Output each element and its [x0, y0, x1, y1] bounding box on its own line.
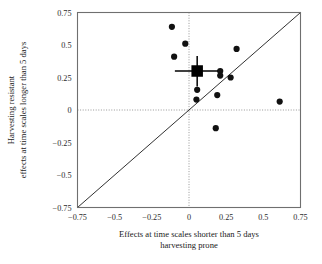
data-point: [182, 41, 188, 47]
data-point: [213, 125, 219, 131]
x-tick-label: −0.25: [142, 213, 161, 222]
x-tick-label: 0.5: [258, 213, 268, 222]
y-tick-label: 0.75: [57, 9, 71, 18]
y-axis-title-line: effects at time scales longer than 5 day…: [18, 41, 28, 178]
x-axis-title-line: Effects at time scales shorter than 5 da…: [119, 229, 260, 239]
x-tick-label: −0.75: [68, 213, 87, 222]
plot-canvas: −0.75−0.5−0.2500.250.50.75−0.75−0.5−0.25…: [0, 0, 322, 264]
data-point: [193, 97, 199, 103]
data-point: [171, 54, 177, 60]
y-tick-label: −0.5: [57, 171, 72, 180]
y-tick-label: 0.5: [61, 41, 71, 50]
mean-square-marker: [191, 65, 203, 77]
x-tick-label: 0.25: [219, 213, 233, 222]
data-point: [217, 72, 223, 78]
y-tick-label: −0.75: [53, 204, 72, 213]
data-point: [214, 92, 220, 98]
data-point: [194, 87, 200, 93]
data-point: [169, 24, 175, 30]
y-tick-label: −0.25: [53, 139, 72, 148]
x-tick-label: 0.75: [293, 213, 307, 222]
x-tick-label: 0: [187, 213, 191, 222]
y-axis-title-line: Harvesting resistant: [6, 75, 16, 144]
y-tick-label: 0: [67, 106, 71, 115]
scatter-plot-figure: −0.75−0.5−0.2500.250.50.75−0.75−0.5−0.25…: [0, 0, 322, 264]
x-tick-label: −0.5: [107, 213, 122, 222]
data-point: [233, 46, 239, 52]
data-point: [228, 74, 234, 80]
data-point: [277, 98, 283, 104]
y-tick-label: 0.25: [57, 74, 71, 83]
x-axis-title-line: harvesting prone: [160, 240, 218, 250]
